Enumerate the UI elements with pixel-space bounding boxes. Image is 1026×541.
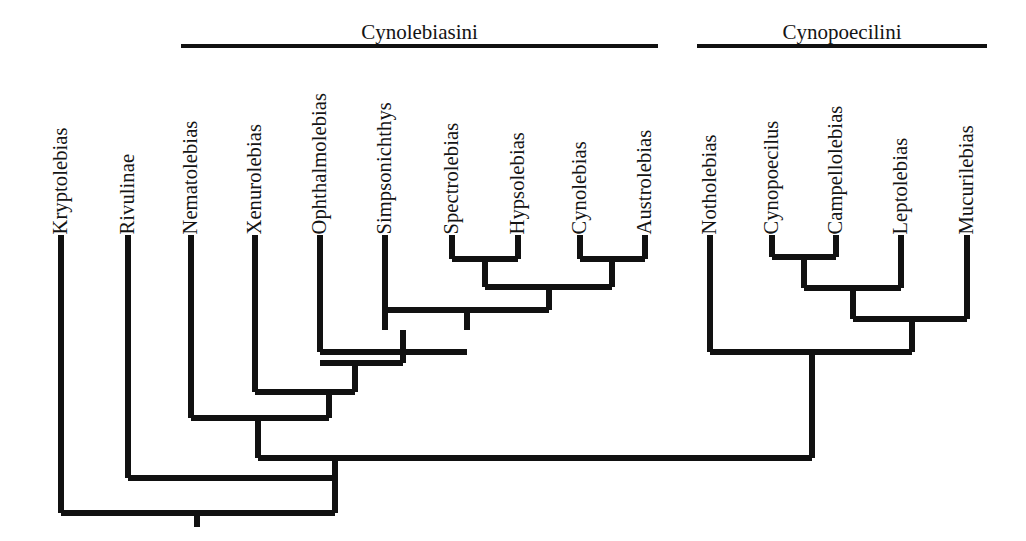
taxon-label-ophthalmolebias: Ophthalmolebias <box>309 93 330 235</box>
taxon-label-spectrolebias: Spectrolebias <box>441 123 462 235</box>
taxon-label-campellolebias: Campellolebias <box>825 106 846 235</box>
taxon-label-leptolebias: Leptolebias <box>890 138 911 235</box>
taxon-label-austrolebias: Austrolebias <box>634 130 655 235</box>
taxon-label-simpsonichthys: Simpsonichthys <box>374 102 395 234</box>
taxon-label-nematolebias: Nematolebias <box>180 121 201 235</box>
taxon-label-notholebias: Notholebias <box>699 134 720 234</box>
tree-branches <box>0 0 1026 541</box>
taxon-label-mucurilebias: Mucurilebias <box>956 125 977 234</box>
taxon-label-hypsolebias: Hypsolebias <box>507 132 528 234</box>
taxon-label-xenurolebias: Xenurolebias <box>244 124 265 235</box>
taxon-label-rivulinae: Rivulinae <box>117 154 138 235</box>
taxon-label-cynopoecilus: Cynopoecilus <box>761 121 782 235</box>
taxon-label-kryptolebias: Kryptolebias <box>50 127 71 234</box>
cladogram-figure: Cynolebiasini Cynopoecilini Kryptolebias… <box>0 0 1026 541</box>
taxon-label-cynolebias: Cynolebias <box>569 141 590 234</box>
